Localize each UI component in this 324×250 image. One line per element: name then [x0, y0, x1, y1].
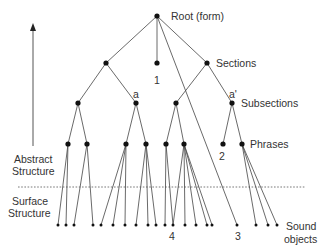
sound-object-node	[155, 224, 158, 227]
tree-edge	[232, 103, 242, 144]
tree-edge	[166, 144, 173, 225]
label-surface: Surface	[12, 195, 48, 207]
phrase-node	[181, 141, 186, 146]
tree-edge	[242, 144, 277, 225]
abstraction-arrow	[30, 23, 36, 146]
sound-object-node	[147, 224, 150, 227]
annotation-4: 4	[169, 230, 175, 242]
label-surface-structure: Structure	[8, 207, 51, 219]
tree-edge	[126, 103, 136, 144]
label-abstract: Abstract	[14, 153, 53, 165]
sound-object-node	[124, 224, 127, 227]
sound-object-node	[65, 224, 68, 227]
phrase-node	[84, 141, 89, 146]
label-sections: Sections	[216, 57, 256, 69]
tree-nodes	[57, 13, 279, 226]
sound-object-node	[236, 224, 239, 227]
phrase-node	[65, 141, 70, 146]
phrase-node	[123, 141, 128, 146]
label-subsections: Subsections	[241, 97, 298, 109]
subsection-node	[75, 100, 80, 105]
sound-object-node	[211, 224, 214, 227]
sound-object-node	[92, 224, 95, 227]
sound-object-node	[100, 224, 103, 227]
tree-edge	[106, 63, 136, 103]
sound-object-node	[57, 224, 60, 227]
annotation-1: 1	[154, 74, 160, 86]
tree-edge	[113, 144, 126, 225]
tree-edge	[125, 144, 126, 225]
tree-edge	[68, 103, 78, 144]
phrase-node	[239, 141, 244, 146]
tree-edge	[176, 103, 184, 144]
label-sound: Sound	[286, 220, 317, 232]
tree-edge	[101, 144, 126, 225]
tree-edge	[242, 144, 256, 225]
sound-object-node	[267, 224, 270, 227]
annotation-a-prime: a'	[229, 88, 237, 100]
section-node	[204, 60, 209, 65]
label-phrases: Phrases	[250, 138, 289, 150]
phrase-node	[143, 141, 148, 146]
tree-diagram: Root (form) Sections Subsections Phrases…	[0, 0, 324, 250]
subsection-node	[173, 100, 178, 105]
tree-edges	[58, 16, 277, 225]
sound-object-node	[135, 224, 138, 227]
label-abstract-structure: Structure	[12, 165, 55, 177]
label-root: Root (form)	[171, 10, 224, 22]
tree-edge	[136, 103, 146, 144]
subsection-node	[133, 100, 138, 105]
tree-edge	[165, 144, 166, 225]
tree-edge	[184, 144, 196, 225]
annotation-a: a	[133, 88, 139, 100]
sound-object-node	[206, 224, 209, 227]
sound-object-node	[112, 224, 115, 227]
sound-object-node	[276, 224, 279, 227]
tree-edge	[173, 144, 184, 225]
section-node	[154, 60, 159, 65]
tree-edge	[184, 144, 207, 225]
tree-edge	[166, 103, 176, 144]
tree-edge	[106, 16, 157, 63]
tree-edge	[184, 144, 185, 225]
label-objects: objects	[284, 233, 317, 245]
tree-edge	[157, 16, 237, 225]
tree-edge	[74, 144, 87, 225]
sound-object-node	[73, 224, 76, 227]
sound-object-node	[255, 224, 258, 227]
annotation-3: 3	[235, 230, 241, 242]
sound-object-node	[184, 224, 187, 227]
sound-object-node	[195, 224, 198, 227]
annotation-2: 2	[219, 150, 225, 162]
tree-edge	[87, 144, 93, 225]
tree-edge	[78, 63, 106, 103]
subsection-node	[229, 100, 234, 105]
tree-edge	[176, 63, 207, 103]
section-node	[103, 60, 108, 65]
tree-edge	[136, 144, 146, 225]
tree-edge	[223, 103, 232, 144]
phrase-node	[163, 141, 168, 146]
sound-object-node	[164, 224, 167, 227]
root-node	[154, 13, 159, 18]
sound-object-node	[172, 224, 175, 227]
tree-edge	[157, 16, 207, 63]
phrase-node	[220, 141, 225, 146]
tree-edge	[78, 103, 87, 144]
tree-edge	[242, 144, 268, 225]
tree-edge	[184, 144, 212, 225]
